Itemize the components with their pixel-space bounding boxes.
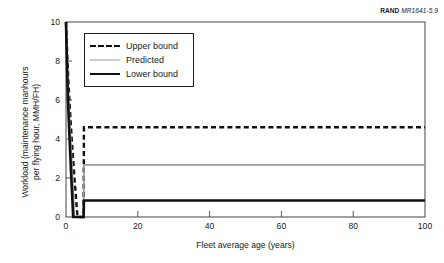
legend-label: Upper bound bbox=[126, 41, 178, 51]
figure-container: RAND MR1641-5.9 Workload (maintenance ma… bbox=[0, 0, 444, 263]
legend-label: Predicted bbox=[126, 55, 164, 65]
legend-item-predicted: Predicted bbox=[90, 53, 186, 67]
legend-label: Lower bound bbox=[126, 69, 178, 79]
plot-area bbox=[0, 0, 444, 263]
legend-item-upper-bound: Upper bound bbox=[90, 39, 186, 53]
legend-item-lower-bound: Lower bound bbox=[90, 67, 186, 81]
legend: Upper bound Predicted Lower bound bbox=[84, 33, 194, 87]
